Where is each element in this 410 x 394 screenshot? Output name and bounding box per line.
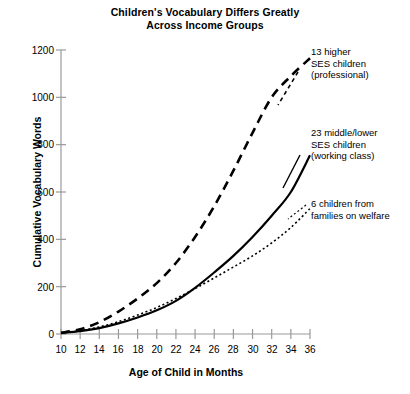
leader-line-1	[283, 155, 300, 188]
series-lines	[61, 58, 310, 333]
plot-area	[0, 0, 410, 394]
series-line-0	[61, 58, 310, 333]
leader-line-2	[288, 205, 306, 219]
annotation-leader-lines	[278, 72, 306, 219]
series-line-1	[61, 155, 310, 333]
leader-line-0	[278, 72, 298, 105]
vocabulary-growth-chart: Children's Vocabulary Differs Greatly Ac…	[0, 0, 410, 394]
axes	[61, 50, 310, 334]
series-line-2	[61, 209, 310, 333]
